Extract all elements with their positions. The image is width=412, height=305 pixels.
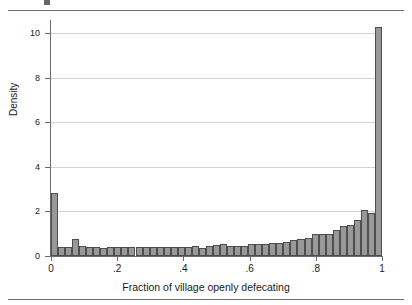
histogram-bar [276,243,283,256]
histogram-bar [86,247,93,256]
top-crop-mark [44,0,50,5]
x-axis-tick-label: 0 [36,263,66,274]
histogram-bar [199,248,206,256]
y-axis-label: Density [9,83,19,116]
y-axis-tick-label: 10 [18,29,40,38]
y-axis-tick-label: 0 [18,252,40,261]
bottom-divider-rule [8,299,404,300]
histogram-bar [192,246,199,256]
histogram-bar [100,248,107,256]
x-axis-tick [51,256,52,261]
histogram-bar [107,247,114,256]
histogram-bar [255,244,262,256]
histogram-bar [297,239,304,256]
y-axis-tick-label: 8 [18,74,40,83]
x-axis-tick-label: .2 [102,263,132,274]
histogram-bar [312,234,319,256]
x-axis-tick [183,256,184,261]
histogram-bar [283,242,290,256]
x-axis-line [51,256,383,257]
histogram-bar [121,247,128,256]
histogram-bar [51,193,58,256]
histogram-bar [206,246,213,256]
x-axis-tick [250,256,251,261]
histogram-bar [290,240,297,256]
histogram-bar [234,246,241,256]
histogram-bar [269,243,276,256]
histogram-bar [354,220,361,256]
histogram-bar [157,247,164,256]
histogram-bar [213,245,220,256]
x-axis-label: Fraction of village openly defecating [0,281,412,293]
histogram-bar [143,247,150,256]
y-axis-tick-label: 2 [18,207,40,216]
histogram-bar [361,210,368,256]
histogram-bar [340,226,347,256]
histogram-bar [114,247,121,256]
histogram-bar [93,247,100,256]
histogram-bar [227,246,234,256]
histogram-bar [368,213,375,256]
x-axis-tick [382,256,383,261]
histogram-bar [241,246,248,256]
histogram-bar [347,225,354,256]
histogram-bar [178,247,185,256]
histogram-bar [262,244,269,256]
histogram-bar [164,247,171,256]
histogram-bar [333,230,340,256]
histogram-bar [248,244,255,256]
histogram-bar [72,239,79,256]
histogram-bar [305,238,312,256]
top-divider-rule [8,10,404,11]
histogram-bar [79,246,86,256]
y-axis-tick-label: 6 [18,118,40,127]
x-axis-tick-label: 1 [367,263,397,274]
histogram-bar [58,247,65,256]
histogram-bar [65,247,72,256]
histogram-bar [150,247,157,256]
histogram-bar [128,247,135,256]
histogram-bar [185,247,192,256]
histogram-bar [171,247,178,256]
x-axis-tick [316,256,317,261]
histogram-bar [319,234,326,256]
x-axis-tick [117,256,118,261]
x-axis-tick-label: .6 [235,263,265,274]
histogram-bar [375,27,382,256]
plot-area [51,20,382,256]
y-axis-tick-label: 4 [18,163,40,172]
histogram-bar [136,247,143,256]
histogram-figure: Density 0246810 0.2.4.6.81 Fraction of v… [0,0,412,305]
histogram-bar [220,244,227,256]
x-axis-tick-label: .8 [301,263,331,274]
x-axis-tick-label: .4 [168,263,198,274]
histogram-bar [326,234,333,256]
